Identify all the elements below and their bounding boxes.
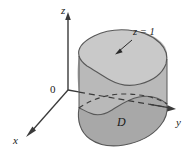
region-label-D: D (116, 115, 126, 129)
height-label-z-equals-1: z = 1 (132, 26, 155, 37)
y-axis-segment-near-origin (68, 90, 80, 92)
z-axis (65, 12, 71, 90)
z-axis-label: z (60, 4, 66, 16)
solid-over-region-diagram: z y x 0 z = 1 D (0, 0, 195, 159)
y-axis-arrowhead (167, 105, 176, 111)
y-axis-visible-near-origin (68, 90, 80, 92)
z-axis-arrowhead (65, 12, 71, 20)
x-axis (26, 90, 68, 137)
figure-container: z y x 0 z = 1 D (0, 0, 195, 159)
y-axis-label: y (175, 116, 181, 128)
x-axis-label: x (12, 134, 18, 146)
x-axis-line (31, 90, 68, 132)
origin-label: 0 (50, 83, 56, 95)
